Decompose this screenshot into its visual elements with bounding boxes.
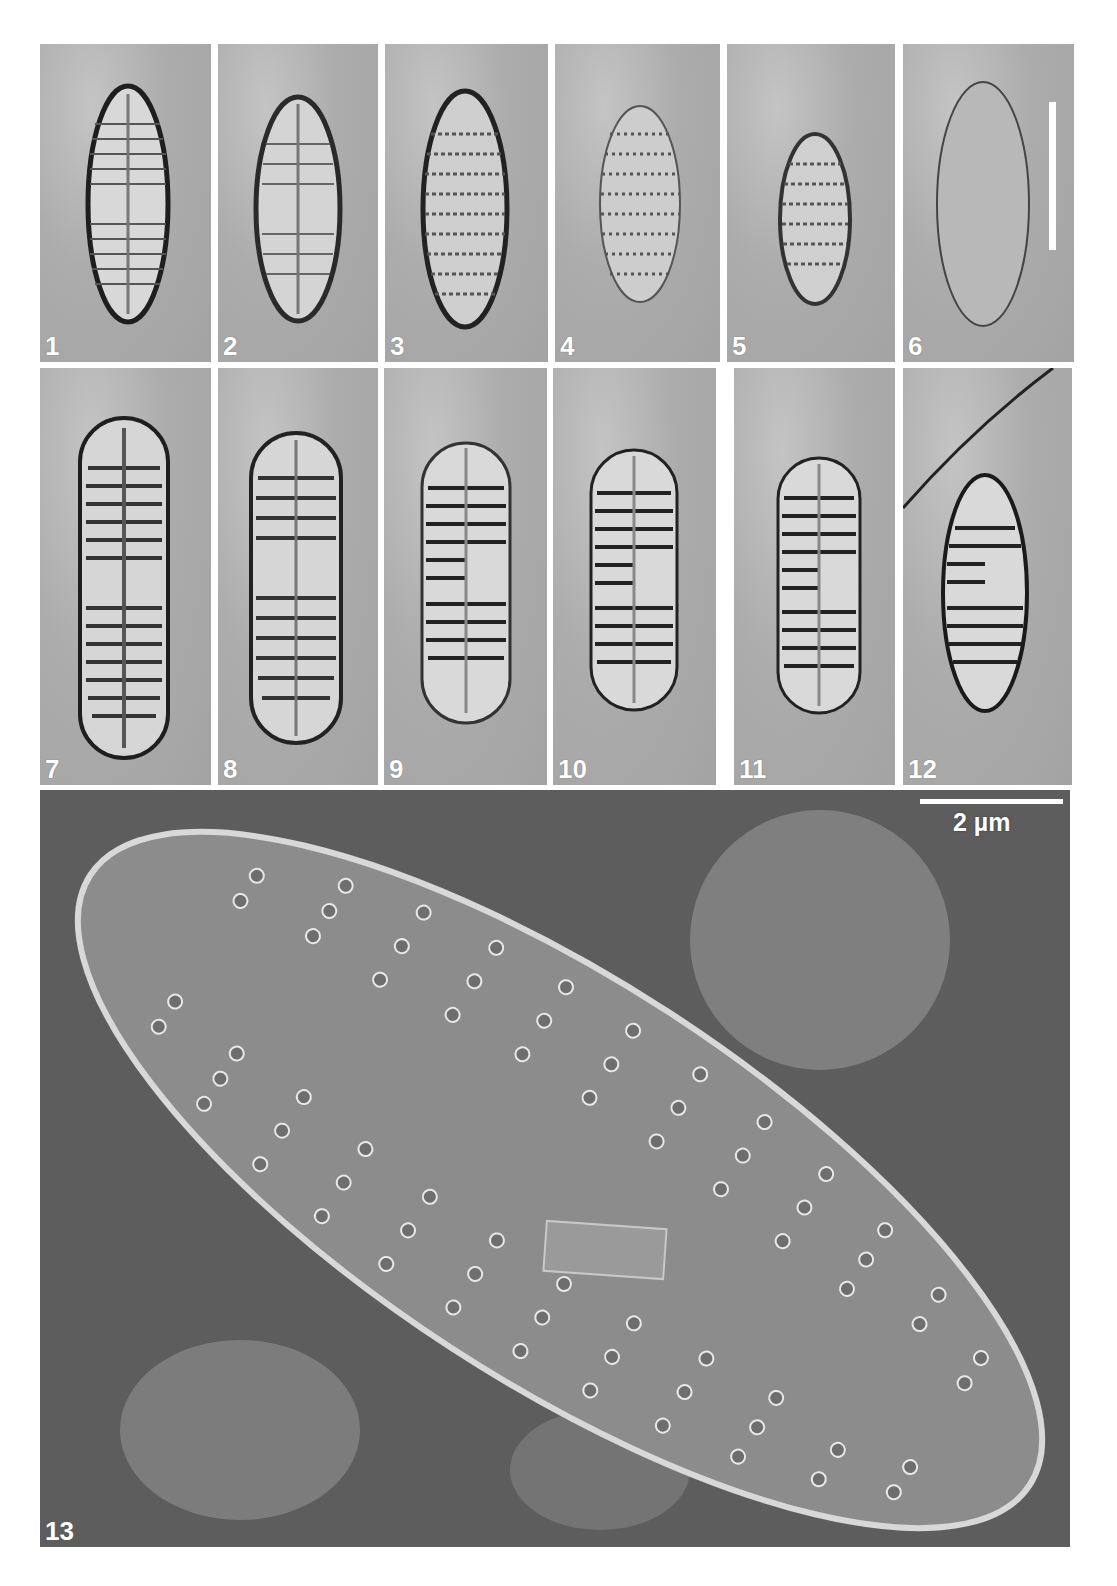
diatom-valve-illustration: [40, 368, 211, 785]
sem-panel-13: 2 µm 13: [40, 790, 1070, 1547]
micrograph-panel-1: 1: [40, 44, 211, 362]
scale-bar: [1049, 102, 1056, 250]
micrograph-panel-8: 8: [218, 368, 378, 785]
diatom-valve-illustration: [903, 368, 1072, 785]
micrograph-panel-4: 4: [555, 44, 720, 362]
panel-label: 6: [908, 333, 922, 359]
panel-label: 12: [908, 756, 937, 782]
panel-label: 1: [45, 333, 59, 359]
micrograph-panel-3: 3: [385, 44, 548, 362]
panel-label: 4: [560, 333, 574, 359]
scale-bar-label: 2 µm: [953, 810, 1010, 835]
diatom-valve-illustration: [555, 44, 720, 362]
micrograph-panel-7: 7: [40, 368, 211, 785]
micrograph-panel-9: 9: [384, 368, 547, 785]
panel-label: 11: [739, 756, 767, 782]
panel-label: 3: [390, 333, 404, 359]
panel-label: 10: [558, 756, 587, 782]
micrograph-panel-12: 12: [903, 368, 1072, 785]
diatom-valve-illustration: [727, 44, 895, 362]
micrograph-panel-2: 2: [218, 44, 378, 362]
diatom-valve-illustration: [553, 368, 716, 785]
micrograph-panel-11: 11: [734, 368, 895, 785]
panel-label: 7: [45, 756, 59, 782]
diatom-valve-illustration: [734, 368, 895, 785]
diatom-valve-illustration: [385, 44, 548, 362]
micrograph-panel-10: 10: [553, 368, 716, 785]
scale-bar: [920, 799, 1063, 804]
panel-label: 2: [223, 333, 237, 359]
diatom-valve-illustration: [218, 368, 378, 785]
panel-label: 8: [223, 756, 237, 782]
diatom-valve-illustration: [40, 44, 211, 362]
panel-label: 13: [45, 1518, 74, 1544]
micrograph-panel-6: 6: [903, 44, 1074, 362]
panel-label: 5: [732, 333, 746, 359]
panel-label: 9: [389, 756, 403, 782]
diatom-valve-illustration: [218, 44, 378, 362]
diatom-valve-illustration: [384, 368, 547, 785]
micrograph-panel-5: 5: [727, 44, 895, 362]
sem-valve-illustration: [40, 790, 1070, 1547]
